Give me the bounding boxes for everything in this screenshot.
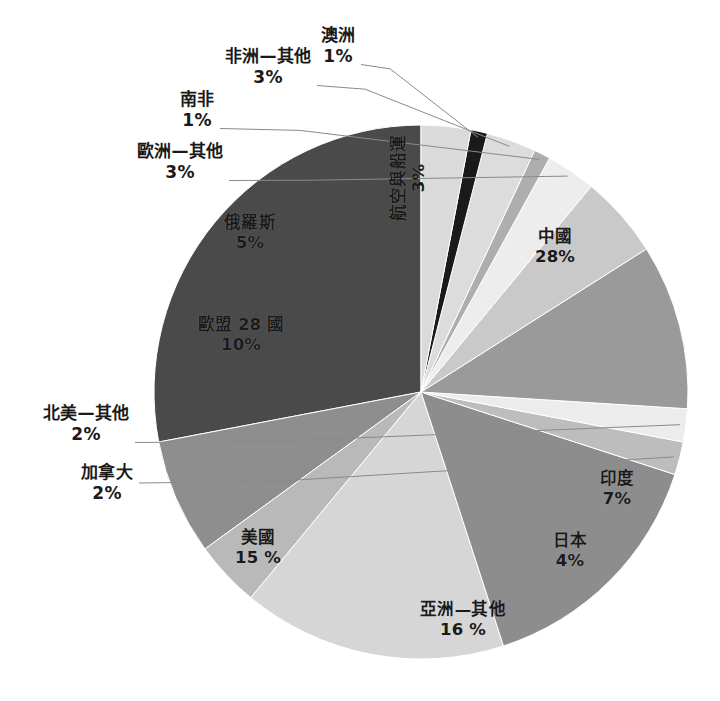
pie-slice-label-name: 非洲—其他 — [225, 46, 311, 67]
pie-chart-canvas — [0, 0, 720, 701]
pie-slice-label-name: 南非 — [180, 89, 214, 110]
pie-slice-label: 北美—其他2% — [43, 403, 129, 444]
pie-slice-label-percent: 2% — [81, 483, 133, 504]
pie-slice-label-percent: 3% — [409, 135, 429, 221]
pie-slice-label-percent: 10% — [198, 335, 285, 355]
pie-slice-label-name: 澳洲 — [321, 25, 355, 46]
pie-slice-label-percent: 15 % — [235, 548, 281, 568]
pie-slice-label-name: 美國 — [235, 528, 281, 548]
pie-slice-label: 歐洲—其他3% — [137, 141, 223, 182]
pie-slice-label: 南非1% — [180, 89, 214, 130]
pie-slice-label: 航空與船運3% — [389, 135, 429, 221]
pie-slice-label-name: 亞洲—其他 — [420, 600, 506, 620]
pie-slice-label: 澳洲1% — [321, 25, 355, 66]
pie-slice-label: 亞洲—其他16 % — [420, 600, 506, 640]
pie-slice-label-percent: 3% — [225, 67, 311, 88]
pie-chart-figure: 中國28%印度7%日本4%亞洲—其他16 %美國15 %加拿大2%北美—其他2%… — [0, 0, 720, 701]
pie-slice-label: 俄羅斯5% — [224, 213, 276, 253]
pie-slice-label-name: 歐洲—其他 — [137, 141, 223, 162]
pie-slice-label-name: 加拿大 — [81, 462, 133, 483]
pie-slice-label-percent: 5% — [224, 233, 276, 253]
pie-slice-label-name: 日本 — [553, 531, 587, 551]
pie-slice-label-percent: 1% — [180, 110, 214, 131]
pie-slice-label-percent: 28% — [535, 247, 575, 267]
pie-slice-label-percent: 4% — [553, 551, 587, 571]
pie-slice-label: 加拿大2% — [81, 462, 133, 503]
pie-slice-label-percent: 1% — [321, 46, 355, 67]
pie-slice-label-name: 北美—其他 — [43, 403, 129, 424]
pie-slice-label-name: 中國 — [535, 227, 575, 247]
pie-slice-label-percent: 16 % — [420, 620, 506, 640]
pie-slice-label: 非洲—其他3% — [225, 46, 311, 87]
pie-slice-label: 印度7% — [600, 469, 634, 509]
pie-slice-label-name: 歐盟 28 國 — [198, 315, 285, 335]
pie-slice-label: 美國15 % — [235, 528, 281, 568]
pie-slice-label-percent: 2% — [43, 424, 129, 445]
pie-slice-label: 歐盟 28 國10% — [198, 315, 285, 355]
pie-slice-label: 日本4% — [553, 531, 587, 571]
pie-slice-label-name: 俄羅斯 — [224, 213, 276, 233]
pie-slice-label-percent: 3% — [137, 162, 223, 183]
pie-slice-label: 中國28% — [535, 227, 575, 267]
pie-slice-label-name: 印度 — [600, 469, 634, 489]
pie-slice-label-name: 航空與船運 — [389, 135, 409, 221]
pie-slice-label-percent: 7% — [600, 489, 634, 509]
